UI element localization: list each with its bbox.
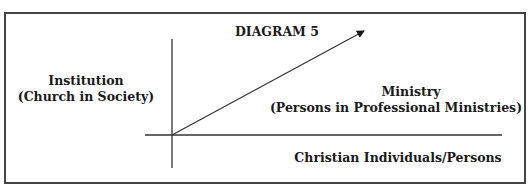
ministry-label: Ministry [296,84,526,99]
ministry-vector-arrow [172,31,364,135]
church-in-society-label: (Church in Society) [16,89,156,104]
christian-individuals-label: Christian Individuals/Persons [290,150,506,165]
diagram-title: DIAGRAM 5 [222,24,332,39]
professional-ministries-label: (Persons in Professional Ministries) [266,100,526,115]
institution-label: Institution [16,73,156,88]
